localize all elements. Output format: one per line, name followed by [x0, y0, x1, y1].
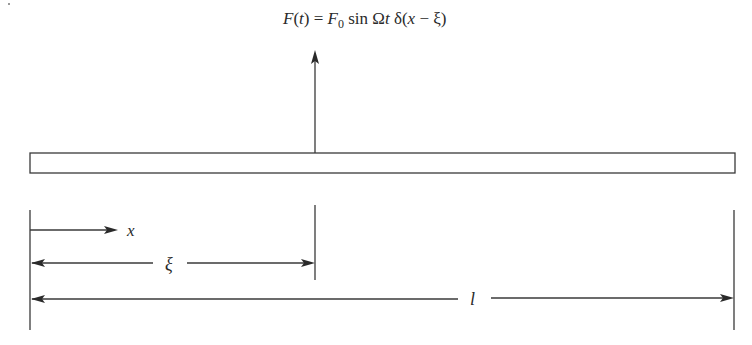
xi-dimension-arrow — [31, 259, 315, 267]
beam — [30, 153, 735, 173]
force-equation-label: F(t) = F0 sin Ωt δ(x − ξ) — [282, 9, 446, 31]
xi-label: ξ — [165, 254, 173, 274]
stray-mark — [8, 3, 10, 5]
force-arrow-icon — [311, 50, 319, 153]
x-label: x — [126, 221, 135, 240]
length-dimension-arrow — [31, 294, 734, 303]
beam-diagram: F(t) = F0 sin Ωt δ(x − ξ) x ξ l — [0, 0, 752, 345]
x-coordinate-arrow — [30, 226, 118, 234]
length-label: l — [470, 289, 475, 309]
